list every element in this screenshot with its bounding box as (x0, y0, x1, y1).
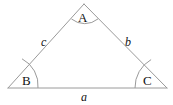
side-label-a: a (81, 91, 87, 103)
vertex-label-c: C (143, 74, 152, 87)
side-label-c: c (41, 36, 46, 48)
vertex-label-b: B (22, 74, 31, 87)
side-label-b: b (125, 36, 131, 48)
vertex-label-a: A (78, 11, 87, 24)
triangle-figure: A B C a b c (0, 0, 173, 105)
